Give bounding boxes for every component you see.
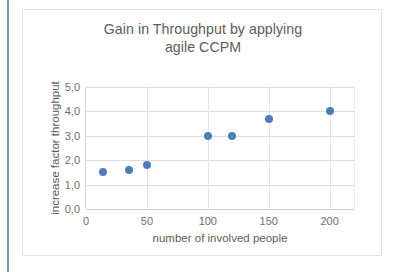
chart-title-line-1: Gain in Throughput by applying [23, 20, 383, 38]
y-gridline [86, 185, 354, 186]
page-margin-rule [7, 0, 9, 272]
x-gridline [208, 87, 209, 209]
y-axis-tick-label: 4,0 [65, 105, 80, 117]
scatter-point [125, 166, 133, 174]
x-gridline [147, 87, 148, 209]
plot-area: 0,01,02,03,04,05,0050100150200 [85, 87, 355, 209]
scatter-point [326, 107, 334, 115]
x-axis-tick-label: 150 [260, 215, 278, 227]
y-gridline [86, 209, 354, 210]
y-axis-tick-label: 1,0 [65, 179, 80, 191]
y-axis-tick-label: 3,0 [65, 130, 80, 142]
x-gridline [330, 87, 331, 209]
y-axis-tick-label: 5,0 [65, 81, 80, 93]
scatter-point [265, 115, 273, 123]
x-axis-tick-label: 50 [141, 215, 153, 227]
x-axis-tick-label: 0 [83, 215, 89, 227]
x-gridline [269, 87, 270, 209]
x-axis-tick-label: 200 [320, 215, 338, 227]
chart-title: Gain in Throughput by applying agile CCP… [23, 20, 383, 56]
scatter-point [143, 161, 151, 169]
y-gridline [86, 160, 354, 161]
y-gridline [86, 136, 354, 137]
y-axis-tick-label: 0,0 [65, 203, 80, 215]
y-axis-title-label: increase factor throughput [49, 81, 61, 215]
y-axis-tick-label: 2,0 [65, 154, 80, 166]
chart-title-line-2: agile CCPM [23, 38, 383, 56]
y-gridline [86, 87, 354, 88]
scatter-point [228, 132, 236, 140]
y-axis-title: increase factor throughput [47, 87, 63, 209]
scatter-point [204, 132, 212, 140]
chart-card: Gain in Throughput by applying agile CCP… [22, 9, 382, 256]
x-axis-tick-label: 100 [199, 215, 217, 227]
x-axis-title: number of involved people [85, 232, 355, 244]
scatter-point [99, 168, 107, 176]
y-gridline [86, 111, 354, 112]
